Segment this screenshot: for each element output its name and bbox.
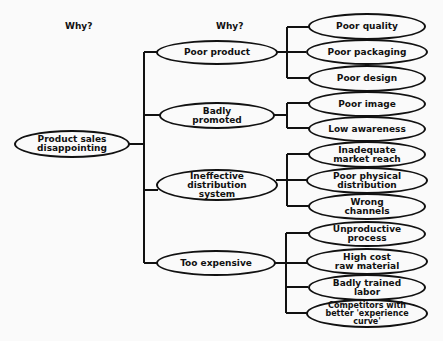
subcause-low-awareness: Low awareness (308, 116, 426, 142)
subcause-poor-image: Poor image (308, 91, 426, 117)
subcause-badly-trained-labor: Badly trained labor (308, 274, 426, 301)
subcause-competitors-experience-curve: Competitors with better 'experience curv… (306, 299, 428, 328)
root-problem-node: Product sales disappointing (14, 130, 130, 158)
subcause-poor-quality: Poor quality (308, 13, 426, 40)
cause-badly-promoted: Badly promoted (159, 102, 275, 129)
subcause-poor-physical-distribution: Poor physical distribution (306, 167, 428, 194)
subcause-poor-packaging: Poor packaging (306, 39, 428, 65)
header-why-1: Why? (65, 21, 92, 31)
subcause-unproductive-process: Unproductive process (308, 221, 426, 247)
subcause-wrong-channels: Wrong channels (308, 193, 426, 220)
cause-poor-product: Poor product (156, 40, 278, 65)
subcause-poor-design: Poor design (308, 65, 426, 92)
subcause-high-cost-raw-material: High cost raw material (306, 248, 428, 275)
cause-ineffective-distribution: Ineffective distribution system (156, 169, 278, 201)
subcause-inadequate-market-reach: Inadequate market reach (308, 141, 426, 168)
header-why-2: Why? (216, 21, 243, 31)
cause-too-expensive: Too expensive (156, 250, 276, 276)
